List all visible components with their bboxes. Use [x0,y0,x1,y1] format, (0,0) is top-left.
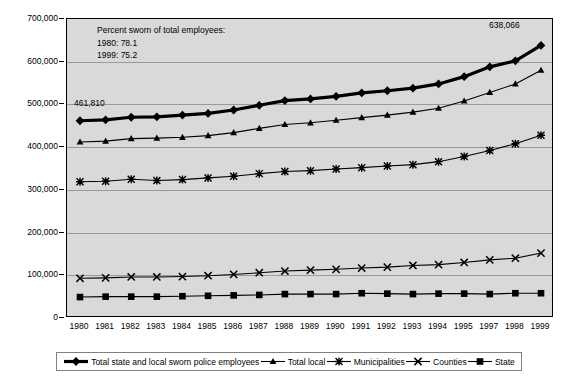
y-axis-tick-600000: 600,000 [0,57,58,66]
diamond-marker [72,357,81,366]
y-tick-label: 100,000 [27,269,58,279]
x-axis-tick-1999: 1999 [531,320,550,332]
square-marker [538,290,545,297]
x-axis-tick-1988: 1988 [274,320,293,332]
asterisk-marker [255,170,263,178]
y-tick-mark [59,146,64,147]
y-tick-label: 300,000 [27,184,58,194]
x-axis-tick-1983: 1983 [146,320,165,332]
last-point-value-label: 638,066 [489,20,520,30]
y-tick-label: 400,000 [27,141,58,151]
x-axis-tick-1993: 1993 [402,320,421,332]
x-axis-tick-1991: 1991 [351,320,370,332]
y-axis-tick-0: 0 [0,313,58,322]
legend-label: State [495,357,515,367]
triangle-marker [538,67,545,73]
asterisk-marker [102,177,110,185]
cross-icon [405,355,431,368]
legend-label: Total local [288,357,326,367]
legend-label: Counties [433,357,467,367]
diamond-marker [383,86,392,95]
series-line [80,70,541,142]
y-tick-label: 200,000 [27,227,58,237]
square-marker [512,290,519,297]
x-axis-tick-1997: 1997 [479,320,498,332]
legend-label: Municipalities [354,357,405,367]
series-total-local [77,67,545,145]
y-axis-tick-100000: 100,000 [0,270,58,279]
legend-item-counties[interactable]: Counties [405,355,467,368]
asterisk-marker [230,172,238,180]
series-municipalities [76,131,545,186]
square-marker [477,358,484,365]
asterisk-marker [460,153,468,161]
square-marker [179,293,186,300]
legend-label: Total state and local sworn police emplo… [91,357,259,367]
diamond-marker [127,113,136,122]
percent-sworn-note: Percent sworn of total employees:1980: 7… [97,24,225,62]
asterisk-marker [204,174,212,182]
plot-area: Percent sworn of total employees:1980: 7… [66,18,553,317]
square-marker [461,290,468,297]
y-tick-label: 500,000 [27,98,58,108]
square-icon [467,355,493,368]
asterisk-marker [486,147,494,155]
diamond-marker [357,88,366,97]
diamond-marker [409,84,418,93]
series-line [80,253,541,278]
x-axis-tick-1995: 1995 [454,320,473,332]
square-marker [333,291,340,298]
x-axis-tick-1989: 1989 [300,320,319,332]
x-axis-tick-1986: 1986 [223,320,242,332]
asterisk-marker [409,161,417,169]
asterisk-marker [153,176,161,184]
asterisk-marker [511,140,519,148]
square-marker [154,293,161,300]
square-marker [77,294,84,301]
legend-item-total-state-and-local-sworn-police-employees[interactable]: Total state and local sworn police emplo… [63,355,259,368]
legend-item-municipalities[interactable]: Municipalities [326,355,405,368]
diamond-marker [434,80,443,89]
diamond-marker [76,116,85,125]
asterisk-icon [326,355,352,368]
diamond-marker [332,92,341,101]
diamond-marker [204,109,213,118]
x-axis-tick-1982: 1982 [121,320,140,332]
note-line-3: 1999: 75.2 [97,49,225,62]
x-axis-tick-1994: 1994 [428,320,447,332]
diamond-marker [460,72,469,81]
asterisk-marker [76,178,84,186]
x-axis-tick-1987: 1987 [249,320,268,332]
y-tick-mark [59,274,64,275]
series-group [67,19,554,318]
y-tick-mark [59,189,64,190]
diamond-marker [255,101,264,110]
asterisk-marker [178,176,186,184]
x-axis-tick-1984: 1984 [172,320,191,332]
square-marker [256,292,263,299]
y-tick-label: 600,000 [27,56,58,66]
diamond-marker [306,94,315,103]
legend-item-state[interactable]: State [467,355,515,368]
series-state [77,290,545,300]
square-marker [282,291,289,298]
asterisk-marker [537,131,545,139]
asterisk-marker [281,167,289,175]
y-tick-mark [59,61,64,62]
note-line-1: Percent sworn of total employees: [97,24,225,37]
asterisk-marker [383,162,391,170]
square-marker [205,292,212,299]
x-axis-tick-1981: 1981 [95,320,114,332]
y-axis-tick-700000: 700,000 [0,14,58,23]
x-axis-tick-1990: 1990 [326,320,345,332]
legend-item-total-local[interactable]: Total local [260,355,326,368]
y-axis-tick-300000: 300,000 [0,185,58,194]
asterisk-marker [307,167,315,175]
y-axis-tick-500000: 500,000 [0,99,58,108]
asterisk-marker [332,165,340,173]
x-axis-tick-labels: 1980198119821983198419851986198719881989… [66,320,553,334]
asterisk-marker [127,175,135,183]
diamond-marker [101,115,110,124]
first-point-value-label: 461,810 [74,98,105,108]
x-axis-tick-1992: 1992 [377,320,396,332]
